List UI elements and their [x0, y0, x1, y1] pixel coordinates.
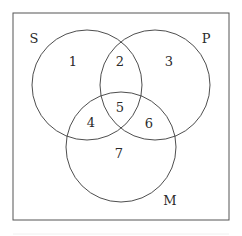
- region-2-label: 2: [116, 54, 124, 69]
- region-6-label: 6: [145, 116, 153, 131]
- set-p-label: P: [202, 31, 211, 46]
- venn-diagram: S P M 1 2 3 4 5 6 7: [0, 0, 242, 236]
- region-3-label: 3: [165, 54, 173, 69]
- diagram-frame: [13, 13, 229, 220]
- set-s-label: S: [30, 31, 39, 46]
- set-m-label: M: [163, 193, 176, 208]
- region-7-label: 7: [115, 146, 123, 161]
- set-p-circle: [100, 30, 210, 140]
- region-1-label: 1: [69, 54, 77, 69]
- region-4-label: 4: [87, 115, 95, 130]
- region-5-label: 5: [116, 100, 124, 115]
